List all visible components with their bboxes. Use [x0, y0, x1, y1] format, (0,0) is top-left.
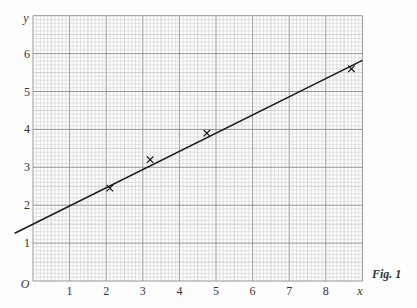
chart-canvas	[0, 0, 417, 308]
y-tick-label: 5	[24, 84, 30, 99]
y-tick-label: 4	[24, 122, 30, 137]
graph-paper-grid	[33, 16, 362, 281]
x-tick-label: 8	[323, 284, 329, 299]
y-tick-label: 1	[24, 236, 30, 251]
y-axis-label: y	[23, 11, 28, 26]
y-tick-label: 6	[24, 46, 30, 61]
x-tick-label: 6	[250, 284, 256, 299]
y-tick-label: 3	[24, 160, 30, 175]
x-tick-label: 2	[103, 284, 109, 299]
x-tick-label: 3	[140, 284, 146, 299]
x-tick-label: 5	[213, 284, 219, 299]
x-tick-label: 4	[176, 284, 182, 299]
x-tick-label: 1	[67, 284, 73, 299]
best-fit-line	[15, 60, 363, 233]
y-tick-label: 2	[24, 198, 30, 213]
figure-caption: Fig. 1	[372, 267, 401, 282]
x-axis-label: x	[357, 284, 362, 299]
origin-label: O	[21, 277, 30, 292]
x-tick-label: 7	[286, 284, 292, 299]
